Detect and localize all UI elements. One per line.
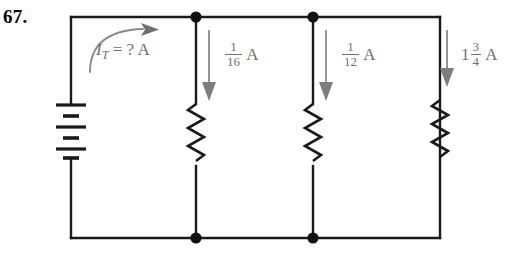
branch-1-unit: A bbox=[246, 45, 258, 64]
branch-3-numerator: 3 bbox=[471, 40, 482, 55]
node-dot-bottom-left bbox=[190, 232, 201, 243]
branch-3-denominator: 4 bbox=[471, 55, 482, 69]
branch-2-fraction: 1 12 bbox=[342, 40, 359, 68]
circuit-schematic bbox=[0, 0, 512, 256]
down-arrow-head-1 bbox=[202, 82, 216, 101]
branch-3-whole-number: 1 bbox=[461, 45, 470, 64]
branch-1-numerator: 1 bbox=[225, 40, 242, 55]
branch-2-unit: A bbox=[363, 45, 375, 64]
node-dot-bottom-right bbox=[307, 232, 318, 243]
down-arrow-head-3 bbox=[440, 68, 454, 87]
branch-1-current-arrow bbox=[202, 30, 216, 101]
source-current-label: IT = ? A bbox=[96, 41, 150, 61]
node-dot-top-right bbox=[307, 11, 318, 22]
branch-2-denominator: 12 bbox=[342, 55, 359, 69]
node-dot-top-left bbox=[190, 11, 201, 22]
branch-2-numerator: 1 bbox=[342, 40, 359, 55]
branch-1-denominator: 16 bbox=[225, 55, 242, 69]
branch-3-unit: A bbox=[485, 45, 497, 64]
branch-1-current-label: 1 16 A bbox=[224, 40, 259, 68]
branch-2-current-arrow bbox=[319, 30, 333, 101]
resistor-1 bbox=[188, 104, 204, 161]
down-arrow-head-2 bbox=[319, 82, 333, 101]
branch-3-current-arrow bbox=[440, 30, 454, 87]
resistor-2 bbox=[305, 104, 321, 161]
branch-3-current-label: 1 3 4 A bbox=[461, 40, 498, 68]
battery-symbol bbox=[56, 105, 86, 158]
source-current-value: = ? A bbox=[108, 40, 149, 59]
branch-2-current-label: 1 12 A bbox=[341, 40, 376, 68]
branch-3-fraction: 3 4 bbox=[471, 40, 482, 68]
circuit-figure: 67. bbox=[0, 0, 512, 256]
branch-1-fraction: 1 16 bbox=[225, 40, 242, 68]
